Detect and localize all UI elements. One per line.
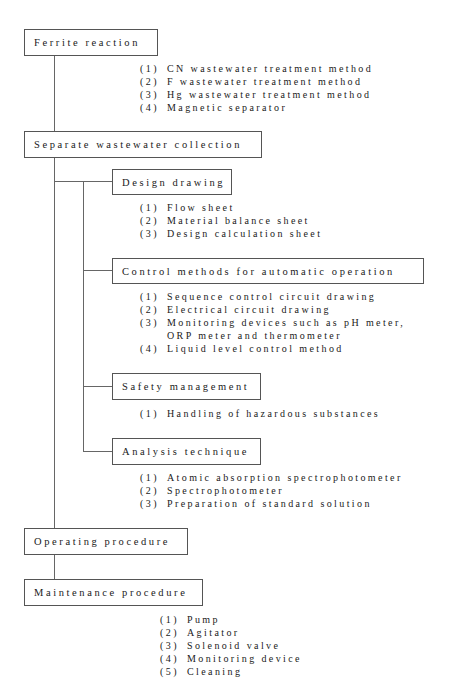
list-item: (3)Preparation of standard solution [140,497,403,510]
separate-wastewater-box: Separate wastewater collection [24,131,262,158]
list-item: (3)Hg wastewater treatment method [140,88,373,101]
list-item: (1)Atomic absorption spectrophotometer [140,471,403,484]
operating-procedure-box: Operating procedure [24,528,188,555]
list-item: (3)Design calculation sheet [140,227,322,240]
list-item: (4)Monitoring device [160,652,302,665]
safety-management-box: Safety management [112,373,261,400]
maintenance-procedure-box: Maintenance procedure [24,579,203,606]
ferrite-reaction-list: (1)CN wastewater treatment method (2)F w… [140,62,373,114]
list-item: (2)Material balance sheet [140,214,322,227]
list-item: (2)Spectrophotometer [140,484,403,497]
list-item: (3)Solenoid valve [160,639,302,652]
design-drawing-list: (1)Flow sheet (2)Material balance sheet … [140,201,322,240]
ferrite-reaction-title: Ferrite reaction [34,37,140,48]
control-methods-list: (1)Sequence control circuit drawing (2)E… [140,290,405,355]
list-item: (4)Liquid level control method [140,342,405,355]
ferrite-reaction-box: Ferrite reaction [24,29,158,56]
maintenance-procedure-title: Maintenance procedure [34,587,187,598]
main-trunk-line [54,55,55,528]
connector-safety [83,386,112,387]
maintenance-procedure-list: (1)Pump (2)Agitator (3)Solenoid valve (4… [160,613,302,678]
safety-management-title: Safety management [122,381,249,392]
analysis-technique-list: (1)Atomic absorption spectrophotometer (… [140,471,403,510]
list-item: (2)Electrical circuit drawing [140,303,405,316]
analysis-technique-title: Analysis technique [122,446,249,457]
list-item: (3)Monitoring devices such as pH meter, [140,316,405,329]
list-item: (1)Sequence control circuit drawing [140,290,405,303]
sub-trunk-line [83,181,84,452]
safety-management-list: (1)Handling of hazardous substances [140,407,380,420]
operating-procedure-title: Operating procedure [34,536,170,547]
list-item: (1)Handling of hazardous substances [140,407,380,420]
connector-design [54,181,112,182]
list-item: (1)CN wastewater treatment method [140,62,373,75]
list-item: (1)Flow sheet [140,201,322,214]
list-item: (4)Magnetic separator [140,101,373,114]
control-methods-title: Control methods for automatic operation [122,266,395,277]
design-drawing-title: Design drawing [122,177,225,188]
design-drawing-box: Design drawing [112,169,232,195]
list-item: (5)Cleaning [160,665,302,678]
list-item-continuation: ORP meter and thermometer [140,329,405,342]
list-item: (1)Pump [160,613,302,626]
connector-analysis [83,451,112,452]
separate-wastewater-title: Separate wastewater collection [34,139,242,150]
list-item: (2)F wastewater treatment method [140,75,373,88]
analysis-technique-box: Analysis technique [112,438,261,465]
connector-control [83,270,112,271]
list-item: (2)Agitator [160,626,302,639]
control-methods-box: Control methods for automatic operation [112,258,424,284]
connector-maintenance [54,554,55,579]
